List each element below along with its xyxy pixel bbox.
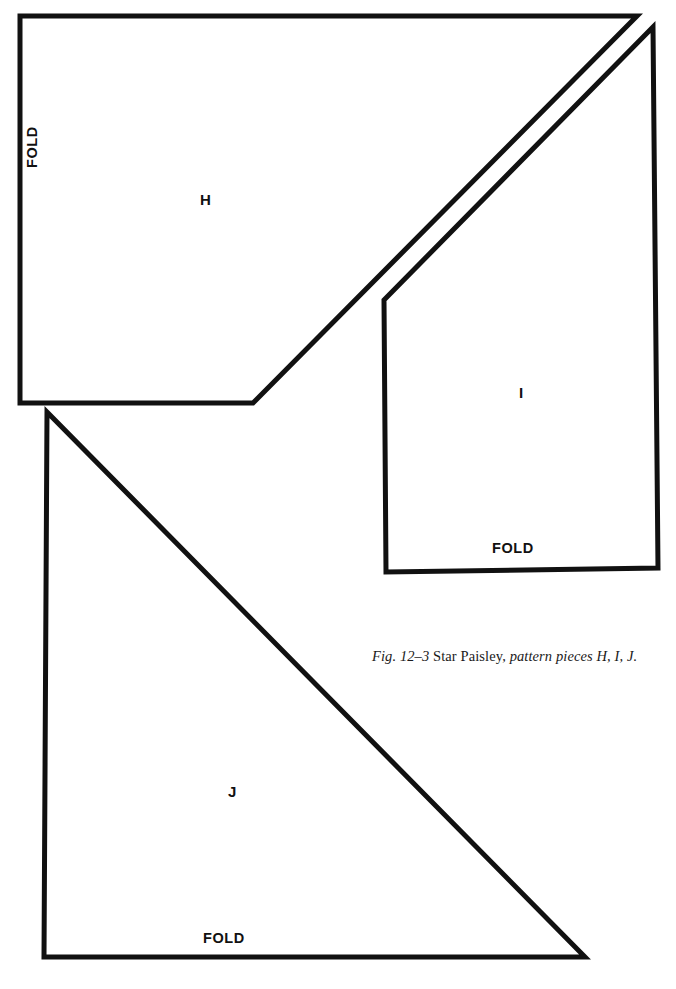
pattern-figure-sheet: H I J FOLD FOLD FOLD Fig. 12–3 Star Pais… xyxy=(0,0,676,989)
pattern-pieces-drawing xyxy=(0,0,676,989)
pattern-piece-i-label: I xyxy=(519,385,523,400)
figure-caption: Fig. 12–3 Star Paisley, pattern pieces H… xyxy=(372,648,637,665)
figure-caption-detail: pattern pieces H, I, J. xyxy=(510,648,638,664)
fold-label-piece-j: FOLD xyxy=(203,931,245,946)
pattern-piece-h-label: H xyxy=(200,192,211,207)
figure-caption-title: Star Paisley, xyxy=(433,648,506,664)
fold-label-piece-h: FOLD xyxy=(25,126,40,168)
pattern-piece-j-label: J xyxy=(228,784,237,799)
figure-caption-number: Fig. 12–3 xyxy=(372,648,429,664)
fold-label-piece-i: FOLD xyxy=(492,541,534,556)
